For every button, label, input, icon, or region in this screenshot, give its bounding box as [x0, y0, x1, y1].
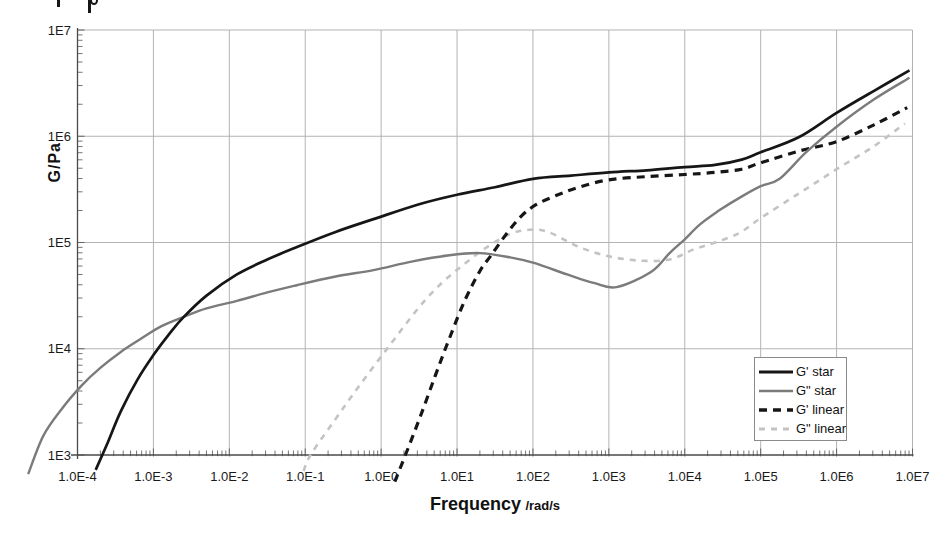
legend-label: G' linear — [796, 402, 844, 417]
legend-sample-line — [758, 425, 794, 433]
y-tick-label: 1E3 — [48, 448, 71, 463]
y-tick-label: 1E5 — [48, 235, 71, 250]
x-tick-label: 1.0E4 — [668, 469, 702, 484]
legend-sample-line — [758, 406, 794, 414]
legend-item-g-prime-linear: G' linear — [758, 400, 846, 419]
plot-area: 1.0E-41.0E-31.0E-21.0E-11.0E01.0E11.0E21… — [0, 0, 948, 535]
x-axis-title-unit: /rad/s — [525, 498, 560, 513]
y-tick-label: 1E7 — [48, 23, 71, 38]
x-tick-label: 1.0E-3 — [134, 469, 172, 484]
legend-sample-line — [758, 368, 794, 376]
x-tick-label: 1.0E6 — [820, 469, 854, 484]
x-tick-label: 1.0E-1 — [286, 469, 324, 484]
x-axis-title: Frequency /rad/s — [77, 494, 913, 515]
chart-figure: 1.0E-41.0E-31.0E-21.0E-11.0E01.0E11.0E21… — [0, 0, 948, 535]
x-tick-label: 1.0E2 — [516, 469, 550, 484]
legend-label: G" star — [796, 383, 836, 398]
x-tick-label: 1.0E3 — [592, 469, 626, 484]
y-tick-label: 1E4 — [48, 341, 71, 356]
x-tick-label: 1.0E1 — [440, 469, 474, 484]
legend-label: G' star — [796, 364, 834, 379]
legend-sample-line — [758, 387, 794, 395]
x-tick-label: 1.0E-4 — [58, 469, 96, 484]
x-tick-label: 1.0E0 — [364, 469, 398, 484]
legend: G' star G" star G' linear G" linear — [754, 357, 847, 441]
y-axis-title: G/Pa — [46, 142, 64, 182]
x-tick-label: 1.0E5 — [744, 469, 778, 484]
x-tick-label: 1.0E-2 — [210, 469, 248, 484]
legend-item-g-prime-star: G' star — [758, 362, 846, 381]
legend-item-g-dprime-linear: G" linear — [758, 419, 846, 438]
x-axis-title-main: Frequency — [430, 494, 521, 514]
legend-item-g-dprime-star: G" star — [758, 381, 846, 400]
legend-label: G" linear — [796, 421, 846, 436]
x-tick-label: 1.0E7 — [896, 469, 930, 484]
